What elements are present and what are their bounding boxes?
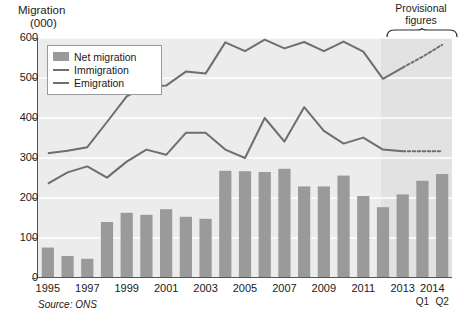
legend-item-immigration: Immigration — [53, 63, 156, 76]
bar — [278, 169, 290, 278]
x-axis-tick-label: 2014 — [412, 282, 452, 294]
chart-legend: Net migration Immigration Emigration — [47, 45, 162, 95]
legend-label-emigration: Emigration — [74, 77, 124, 89]
bar — [140, 215, 152, 278]
x-axis-tick-label: 1997 — [67, 282, 107, 294]
bar — [259, 172, 271, 278]
bar — [121, 213, 133, 278]
y-axis-tick — [32, 38, 37, 39]
bar — [101, 222, 113, 278]
y-axis-tick-label: 400 — [8, 111, 38, 123]
legend-swatch-immigration — [53, 69, 69, 71]
legend-label-net: Net migration — [74, 51, 136, 63]
bar — [337, 176, 349, 278]
legend-swatch-net — [53, 52, 69, 61]
source-note: Source: ONS — [38, 299, 97, 310]
x-axis-tick-label: 2007 — [264, 282, 304, 294]
chart-title-line1: Migration — [18, 4, 65, 16]
x-axis-tick-label: 2003 — [186, 282, 226, 294]
y-axis-tick-label: 100 — [8, 231, 38, 243]
x-axis-tick-label: 2009 — [304, 282, 344, 294]
x-axis-tick-label: 1995 — [28, 282, 68, 294]
bar — [397, 194, 409, 278]
bar — [81, 259, 93, 278]
legend-item-net: Net migration — [53, 50, 156, 63]
legend-swatch-emigration — [53, 82, 69, 84]
bar — [160, 209, 172, 278]
x-axis-tick-label: 2005 — [225, 282, 265, 294]
y-axis-tick-label: 200 — [8, 191, 38, 203]
bar — [357, 196, 369, 278]
chart-title: Migration (000) — [18, 4, 65, 30]
y-axis-tick — [32, 278, 37, 279]
x-axis-tick-label: 2001 — [146, 282, 186, 294]
bar — [180, 217, 192, 278]
x-axis-line — [37, 277, 452, 278]
provisional-line1: Provisional — [381, 3, 461, 15]
bar — [219, 171, 231, 278]
bar — [239, 171, 251, 278]
line-series-provisional — [403, 45, 442, 68]
chart-title-line2: (000) — [18, 17, 65, 30]
y-axis-tick — [32, 238, 37, 239]
bar — [42, 248, 54, 278]
y-axis: 0100200300400500600 — [0, 30, 38, 286]
provisional-brace-icon — [386, 28, 458, 38]
y-axis-tick — [32, 198, 37, 199]
bar — [416, 181, 428, 278]
bar — [298, 186, 310, 278]
x-axis-quarter-label: Q2 — [430, 296, 454, 307]
y-axis-tick — [32, 118, 37, 119]
provisional-line2: figures — [381, 15, 461, 27]
bar — [436, 174, 448, 278]
x-axis-tick-label: 2011 — [343, 282, 383, 294]
legend-label-immigration: Immigration — [74, 64, 129, 76]
bar — [199, 219, 211, 278]
y-axis-tick-label: 500 — [8, 71, 38, 83]
provisional-figures-annotation: Provisional figures — [381, 3, 461, 26]
bar — [61, 256, 73, 278]
bar — [377, 207, 389, 278]
y-axis-tick — [32, 158, 37, 159]
y-axis-tick-label: 300 — [8, 151, 38, 163]
y-axis-tick-label: 600 — [8, 31, 38, 43]
y-axis-tick — [32, 78, 37, 79]
bar — [318, 186, 330, 278]
x-axis-tick-label: 1999 — [107, 282, 147, 294]
legend-item-emigration: Emigration — [53, 76, 156, 89]
